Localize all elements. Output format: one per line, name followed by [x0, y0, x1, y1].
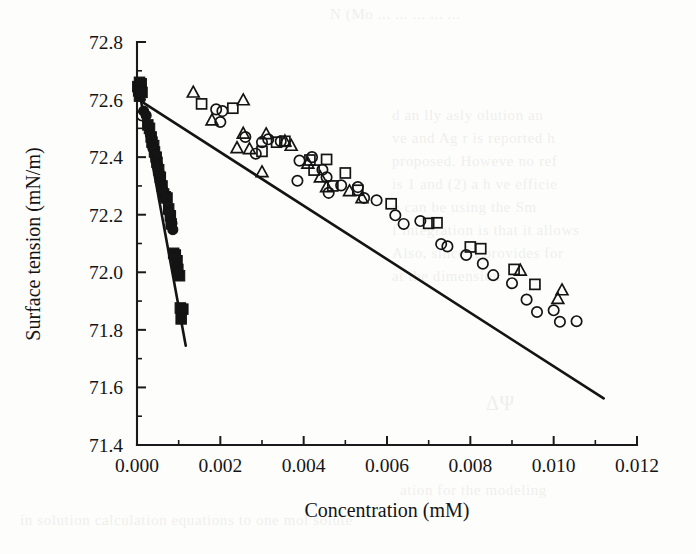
data-markers [133, 77, 582, 327]
data-point-filled-circle [171, 252, 181, 262]
y-tick-label: 72.4 [89, 147, 123, 168]
x-tick-label: 0.012 [615, 455, 659, 476]
data-point-open-circle [292, 176, 302, 186]
x-tick-label: 0.006 [365, 455, 409, 476]
y-tick-label: 72.8 [89, 32, 123, 53]
x-tick-label: 0.000 [115, 455, 159, 476]
data-point-open-circle [571, 316, 581, 326]
data-point-open-circle [488, 270, 498, 280]
data-point-open-triangle [231, 142, 243, 153]
data-point-open-square [340, 168, 350, 178]
data-point-open-circle [555, 317, 565, 327]
x-tick-label: 0.004 [282, 455, 326, 476]
data-point-filled-circle [174, 268, 184, 278]
y-axis-title: Surface tension (mN/m) [22, 147, 45, 340]
data-point-open-circle [521, 294, 531, 304]
data-point-open-circle [371, 195, 381, 205]
data-point-open-triangle [187, 86, 199, 97]
y-tick-label: 71.8 [89, 320, 123, 341]
chart-canvas: 0.0000.0020.0040.0060.0080.0100.01271.47… [0, 0, 696, 554]
x-tick-label: 0.002 [198, 455, 242, 476]
data-point-open-triangle [514, 264, 526, 275]
figure-surface-tension-vs-concentration: N (Mo ... ... ... ... ... d an lly asly … [0, 0, 696, 554]
data-point-open-circle [532, 307, 542, 317]
data-point-open-square [386, 199, 396, 209]
data-point-open-triangle [237, 94, 249, 105]
data-point-filled-circle [168, 225, 178, 235]
x-tick-label: 0.010 [532, 455, 576, 476]
data-point-open-circle [390, 210, 400, 220]
steep-fit-line [140, 97, 185, 345]
data-point-open-triangle [260, 128, 272, 139]
data-point-open-circle [353, 182, 363, 192]
data-point-open-circle [478, 258, 488, 268]
data-point-open-square [322, 154, 332, 164]
y-tick-label: 72.0 [89, 262, 123, 283]
data-point-open-circle [436, 239, 446, 249]
data-point-open-circle [398, 219, 408, 229]
y-tick-label: 71.4 [89, 435, 123, 456]
axis-ticks [137, 42, 637, 445]
data-point-filled-circle [165, 207, 175, 217]
series-open-circles [137, 104, 582, 327]
data-point-open-circle [442, 241, 452, 251]
data-point-open-circle [548, 305, 558, 315]
data-point-filled-square [137, 87, 147, 97]
fit-lines [137, 97, 604, 398]
data-point-open-square [476, 244, 486, 254]
data-point-filled-circle [161, 193, 171, 203]
data-point-open-square [228, 103, 238, 113]
data-point-open-square [530, 279, 540, 289]
y-tick-label: 71.6 [89, 377, 123, 398]
data-point-open-circle [507, 278, 517, 288]
data-point-open-square [197, 99, 207, 109]
x-axis-title: Concentration (mM) [305, 499, 470, 522]
main-fit-line [137, 99, 604, 399]
y-tick-label: 72.2 [89, 205, 123, 226]
x-tick-label: 0.008 [448, 455, 492, 476]
y-tick-label: 72.6 [89, 90, 123, 111]
data-point-open-circle [217, 106, 227, 116]
